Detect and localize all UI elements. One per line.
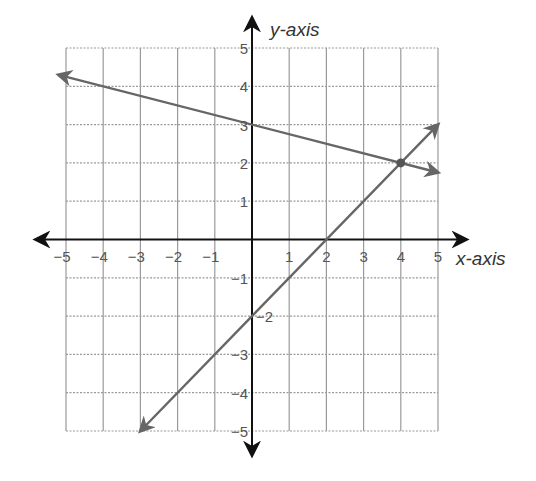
x-tick-label: −4 xyxy=(91,248,108,265)
x-tick-label: 1 xyxy=(285,248,293,265)
plotted-lines xyxy=(59,75,438,431)
y-tick-label: −1 xyxy=(231,270,248,287)
x-tick-label: 3 xyxy=(359,248,367,265)
y-axis-title: y-axis xyxy=(268,19,320,40)
y-tick-label: 5 xyxy=(240,40,248,57)
x-tick-label: −3 xyxy=(128,248,145,265)
y-tick-label: 4 xyxy=(240,78,248,95)
y-tick-label: −3 xyxy=(231,346,248,363)
y-tick-label: 3 xyxy=(240,117,248,134)
y-tick-label: −4 xyxy=(231,385,248,402)
x-tick-label: 4 xyxy=(397,248,405,265)
axes xyxy=(36,18,466,455)
line-1 xyxy=(59,75,438,173)
coordinate-plane: −5−4−3−2−11234554321−1−2−3−4−5 x-axis y-… xyxy=(0,0,536,481)
y-tick-label: 1 xyxy=(240,193,248,210)
x-axis-title: x-axis xyxy=(455,248,506,269)
x-tick-label: 5 xyxy=(434,248,442,265)
intersection-point xyxy=(396,158,405,167)
x-tick-label: −2 xyxy=(165,248,182,265)
y-tick-label: −5 xyxy=(231,423,248,440)
x-tick-label: −5 xyxy=(53,248,70,265)
y-tick-label: −2 xyxy=(256,308,273,325)
x-tick-label: −1 xyxy=(202,248,219,265)
x-tick-label: 2 xyxy=(322,248,330,265)
y-tick-label: 2 xyxy=(240,155,248,172)
